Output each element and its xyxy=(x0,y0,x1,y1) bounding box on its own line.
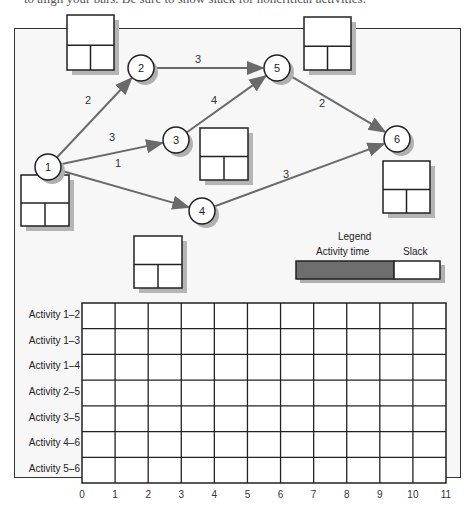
gantt-cell[interactable] xyxy=(214,457,247,483)
gantt-cell[interactable] xyxy=(247,329,280,355)
gantt-axis-tick: 8 xyxy=(337,489,357,500)
gantt-cell[interactable] xyxy=(347,406,380,432)
gantt-cell[interactable] xyxy=(380,329,413,355)
gantt-row-label: Activity 1–4 xyxy=(18,360,80,371)
gantt-cell[interactable] xyxy=(115,380,148,406)
gantt-cell[interactable] xyxy=(82,432,115,458)
gantt-cell[interactable] xyxy=(380,457,413,483)
activity-duration-label: 4 xyxy=(211,94,217,106)
gantt-axis-tick: 6 xyxy=(271,489,291,500)
gantt-cell[interactable] xyxy=(115,457,148,483)
gantt-cell[interactable] xyxy=(247,380,280,406)
gantt-cell[interactable] xyxy=(214,432,247,458)
event-node-2: 2 xyxy=(128,55,158,85)
gantt-cell[interactable] xyxy=(148,354,181,380)
gantt-cell[interactable] xyxy=(82,457,115,483)
svg-text:3: 3 xyxy=(173,134,179,146)
gantt-cell[interactable] xyxy=(148,432,181,458)
gantt-cell[interactable] xyxy=(380,303,413,329)
gantt-cell[interactable] xyxy=(380,354,413,380)
gantt-cell[interactable] xyxy=(314,354,347,380)
gantt-row-label: Activity 4–6 xyxy=(18,437,80,448)
gantt-cell[interactable] xyxy=(181,303,214,329)
gantt-cell[interactable] xyxy=(314,303,347,329)
gantt-cell[interactable] xyxy=(413,354,446,380)
gantt-cell[interactable] xyxy=(82,354,115,380)
gantt-cell[interactable] xyxy=(347,432,380,458)
gantt-cell[interactable] xyxy=(380,432,413,458)
activity-duration-label: 2 xyxy=(85,94,91,106)
svg-text:6: 6 xyxy=(394,133,400,145)
gantt-cell[interactable] xyxy=(148,380,181,406)
gantt-cell[interactable] xyxy=(115,432,148,458)
gantt-cell[interactable] xyxy=(214,329,247,355)
gantt-cell[interactable] xyxy=(115,303,148,329)
gantt-cell[interactable] xyxy=(82,380,115,406)
gantt-cell[interactable] xyxy=(314,406,347,432)
gantt-cell[interactable] xyxy=(115,329,148,355)
gantt-cell[interactable] xyxy=(181,380,214,406)
gantt-axis-tick: 1 xyxy=(105,489,125,500)
gantt-cell[interactable] xyxy=(148,457,181,483)
gantt-cell[interactable] xyxy=(314,380,347,406)
time-box xyxy=(67,15,119,75)
gantt-cell[interactable] xyxy=(247,432,280,458)
gantt-cell[interactable] xyxy=(115,406,148,432)
gantt-grid xyxy=(82,303,446,483)
legend-activity-time-label: Activity time xyxy=(316,246,369,257)
gantt-cell[interactable] xyxy=(148,303,181,329)
gantt-cell[interactable] xyxy=(214,406,247,432)
gantt-cell[interactable] xyxy=(347,354,380,380)
gantt-cell[interactable] xyxy=(281,432,314,458)
gantt-cell[interactable] xyxy=(281,354,314,380)
gantt-cell[interactable] xyxy=(148,406,181,432)
gantt-cell[interactable] xyxy=(214,303,247,329)
activity-duration-label: 2 xyxy=(319,97,325,109)
gantt-cell[interactable] xyxy=(347,457,380,483)
gantt-row-label: Activity 5–6 xyxy=(18,463,80,474)
gantt-cell[interactable] xyxy=(347,303,380,329)
gantt-cell[interactable] xyxy=(347,329,380,355)
gantt-cell[interactable] xyxy=(380,380,413,406)
gantt-cell[interactable] xyxy=(413,329,446,355)
time-box xyxy=(200,128,253,185)
gantt-cell[interactable] xyxy=(413,303,446,329)
gantt-cell[interactable] xyxy=(281,406,314,432)
gantt-cell[interactable] xyxy=(247,303,280,329)
gantt-cell[interactable] xyxy=(413,457,446,483)
gantt-cell[interactable] xyxy=(281,457,314,483)
gantt-cell[interactable] xyxy=(347,380,380,406)
activity-arrow-1-2 xyxy=(57,78,132,157)
gantt-cell[interactable] xyxy=(181,432,214,458)
time-box xyxy=(21,175,74,231)
gantt-cell[interactable] xyxy=(380,406,413,432)
gantt-cell[interactable] xyxy=(214,354,247,380)
gantt-cell[interactable] xyxy=(82,406,115,432)
gantt-cell[interactable] xyxy=(181,354,214,380)
gantt-cell[interactable] xyxy=(214,380,247,406)
gantt-axis-tick: 9 xyxy=(370,489,390,500)
event-node-5: 5 xyxy=(264,55,294,85)
activity-arrow-1-3 xyxy=(61,143,163,164)
gantt-cell[interactable] xyxy=(82,303,115,329)
gantt-cell[interactable] xyxy=(181,329,214,355)
gantt-cell[interactable] xyxy=(314,457,347,483)
gantt-cell[interactable] xyxy=(181,457,214,483)
gantt-cell[interactable] xyxy=(413,406,446,432)
gantt-cell[interactable] xyxy=(181,406,214,432)
gantt-cell[interactable] xyxy=(413,380,446,406)
gantt-cell[interactable] xyxy=(314,329,347,355)
gantt-cell[interactable] xyxy=(413,432,446,458)
gantt-cell[interactable] xyxy=(314,432,347,458)
gantt-cell[interactable] xyxy=(247,457,280,483)
gantt-cell[interactable] xyxy=(247,406,280,432)
activity-duration-label: 3 xyxy=(195,53,201,65)
gantt-cell[interactable] xyxy=(281,329,314,355)
gantt-cell[interactable] xyxy=(281,303,314,329)
gantt-cell[interactable] xyxy=(247,354,280,380)
activity-duration-label: 3 xyxy=(283,168,289,180)
gantt-cell[interactable] xyxy=(281,380,314,406)
gantt-cell[interactable] xyxy=(148,329,181,355)
gantt-cell[interactable] xyxy=(82,329,115,355)
gantt-cell[interactable] xyxy=(115,354,148,380)
